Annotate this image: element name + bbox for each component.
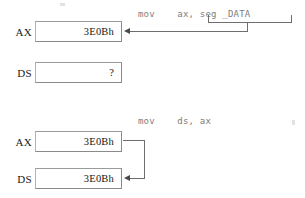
scan-artifact-top bbox=[60, 3, 65, 6]
scan-artifact-right bbox=[292, 120, 295, 125]
connector-horizontal-step-1 bbox=[129, 31, 248, 32]
register-value-ds-step-1: ? bbox=[109, 67, 114, 79]
register-value-ds-step-2: 3E0Bh bbox=[84, 173, 114, 185]
register-label-ax-step-2: AX bbox=[8, 136, 32, 148]
arrowhead-into-ax-step-1 bbox=[124, 28, 130, 34]
register-box-ds-step-1: ? bbox=[35, 62, 122, 83]
instruction-text-step-2: mov ds, ax bbox=[138, 116, 211, 127]
connector-bottom-segment-step-2 bbox=[129, 178, 145, 179]
connector-vertical-step-2 bbox=[144, 140, 145, 178]
register-label-ax-step-1: AX bbox=[8, 26, 32, 38]
register-box-ds-step-2: 3E0Bh bbox=[35, 168, 122, 189]
bracket-rail-step-1 bbox=[208, 22, 292, 23]
connector-top-segment-step-2 bbox=[123, 140, 145, 141]
register-box-ax-step-2: 3E0Bh bbox=[35, 131, 122, 152]
arrowhead-into-ds-step-2 bbox=[124, 175, 130, 181]
register-label-ds-step-1: DS bbox=[8, 67, 32, 79]
register-box-ax-step-1: 3E0Bh bbox=[35, 21, 122, 42]
register-label-ds-step-2: DS bbox=[8, 173, 32, 185]
register-value-ax-step-2: 3E0Bh bbox=[84, 136, 114, 148]
bracket-right-tick-step-1 bbox=[291, 15, 292, 23]
instruction-text-step-1: mov ax, seg _DATA bbox=[138, 9, 250, 20]
diagram-canvas: mov ax, seg _DATA AX 3E0Bh DS ? mov ds, … bbox=[0, 0, 305, 198]
register-value-ax-step-1: 3E0Bh bbox=[84, 26, 114, 38]
